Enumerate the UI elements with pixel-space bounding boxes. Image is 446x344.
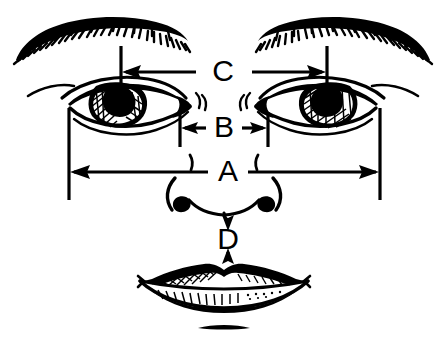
diagram-canvas: C B A D	[0, 0, 446, 344]
face-measurement-svg: C B A D	[0, 0, 446, 344]
label-b: B	[214, 110, 234, 143]
label-c: C	[212, 54, 234, 87]
label-a: A	[218, 154, 238, 187]
label-d: D	[217, 222, 239, 255]
